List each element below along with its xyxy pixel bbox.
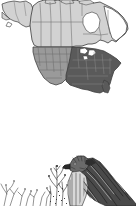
hawk (63, 156, 136, 206)
grass-clumps (1, 180, 51, 206)
field-guide-plate: North America Alaska Canada Western Unit… (0, 0, 136, 206)
perched-hawk-illustration (0, 0, 136, 206)
shrub-stipple (50, 188, 67, 204)
